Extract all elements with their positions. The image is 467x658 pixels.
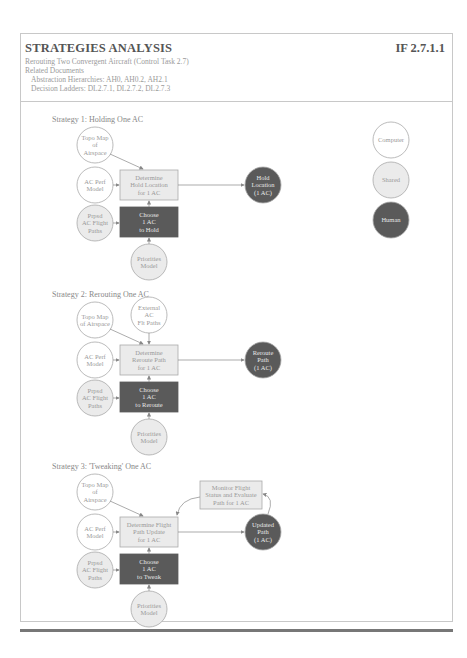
output-node-label: (1 AC): [254, 189, 272, 197]
topo-map-node-label: of Airspace: [80, 320, 110, 327]
output-node-label: (1 AC): [254, 536, 272, 544]
legend-human-label: Human: [381, 216, 401, 223]
proposed-paths-node-label: AC Flight: [82, 394, 108, 401]
legend-computer-label: Computer: [378, 136, 405, 143]
topo-map-node-label: of: [92, 488, 98, 495]
strategy-title: Strategy 2: Rerouting One AC: [52, 290, 149, 299]
priorities-model-node-label: Priorities: [137, 430, 161, 437]
topo-map-node-label: of: [92, 141, 98, 148]
choose-box-label: to Tweak: [137, 573, 162, 580]
choose-box-label: 1 AC: [142, 218, 156, 225]
process-box-label: for 1 AC: [138, 364, 161, 371]
ac-perf-model-node-label: Model: [87, 360, 104, 367]
choose-box-label: Choose: [139, 558, 159, 565]
output-node-label: Path: [257, 356, 269, 363]
process-box-label: Determine: [135, 349, 163, 356]
proposed-paths-node-label: Paths: [88, 227, 103, 234]
legend-shared-label: Shared: [382, 176, 401, 183]
process-box-label: for 1 AC: [138, 536, 161, 543]
proposed-paths-node-label: Prpsd: [88, 212, 104, 219]
output-node-label: (1 AC): [254, 364, 272, 372]
proposed-paths-node-label: AC Flight: [82, 219, 108, 226]
proposed-paths-node-label: AC Flight: [82, 566, 108, 573]
priorities-model-node-label: Model: [141, 437, 158, 444]
proposed-paths-node-label: Prpsd: [88, 387, 104, 394]
topo-map-node-label: Topo Map: [82, 134, 109, 141]
output-node-label: Location: [251, 181, 275, 188]
process-box-label: Determine Flight: [127, 521, 172, 528]
ac-perf-model-node-label: Model: [87, 532, 104, 539]
priorities-model-node-label: Model: [141, 262, 158, 269]
process-box-label: for 1 AC: [138, 189, 161, 196]
strategy-title: Strategy 3: 'Tweaking' One AC: [52, 462, 151, 471]
ac-perf-model-node-label: AC Perf: [84, 178, 106, 185]
ac-perf-model-node-label: AC Perf: [84, 353, 106, 360]
arrow-topo-to-process: [110, 501, 143, 516]
external-paths-node-label: AC: [144, 311, 153, 318]
priorities-model-node-label: Priorities: [137, 602, 161, 609]
proposed-paths-node-label: Paths: [88, 402, 103, 409]
monitor-box-label: Monitor Flight: [212, 484, 251, 491]
output-node-label: Hold: [257, 174, 271, 181]
ac-perf-model-node-label: AC Perf: [84, 525, 106, 532]
strategies-diagram: ComputerSharedHumanStrategy 1: Holding O…: [0, 0, 467, 658]
topo-map-node-label: Airspace: [83, 496, 106, 503]
choose-box-label: to Hold: [139, 226, 159, 233]
process-box-label: Reroute Path: [132, 356, 167, 363]
priorities-model-node-label: Model: [141, 609, 158, 616]
arrow-output-to-monitor: [263, 494, 271, 514]
output-node-label: Reroute: [253, 349, 274, 356]
proposed-paths-node-label: Prpsd: [88, 559, 104, 566]
monitor-box-label: Path for 1 AC: [213, 499, 249, 506]
arrow-topo-to-process: [110, 154, 143, 169]
choose-box-label: 1 AC: [142, 393, 156, 400]
output-node-label: Path: [257, 528, 269, 535]
priorities-model-node-label: Priorities: [137, 255, 161, 262]
topo-map-node-label: Topo Map: [82, 481, 109, 488]
choose-box-label: Choose: [139, 211, 159, 218]
process-box-label: Determine: [135, 174, 163, 181]
ac-perf-model-node-label: Model: [87, 185, 104, 192]
external-paths-node-label: Flt Paths: [138, 319, 161, 326]
choose-box-label: to Reroute: [135, 401, 162, 408]
output-node-label: Updated: [252, 521, 275, 528]
topo-map-node-label: Airspace: [83, 149, 106, 156]
topo-map-node-label: Topo Map: [82, 313, 109, 320]
process-box-label: Path Update: [133, 528, 165, 535]
arrow-monitor-to-process: [177, 497, 200, 515]
strategy-title: Strategy 1: Holding One AC: [52, 115, 143, 124]
external-paths-node-label: External: [138, 304, 160, 311]
proposed-paths-node-label: Paths: [88, 574, 103, 581]
choose-box-label: Choose: [139, 386, 159, 393]
monitor-box-label: Status and Evaluate: [205, 491, 256, 498]
choose-box-label: 1 AC: [142, 565, 156, 572]
process-box-label: Hold Location: [130, 181, 168, 188]
arrow-topo-to-process: [110, 329, 143, 344]
